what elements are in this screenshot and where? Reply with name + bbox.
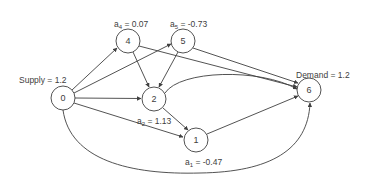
node-2-label: 2: [151, 94, 156, 104]
node-0: 0: [51, 86, 75, 110]
node-4: 4: [116, 29, 140, 53]
node-5-label: 5: [180, 36, 185, 46]
edge-0-2: [75, 98, 141, 99]
edge-1-6: [207, 96, 298, 134]
node-6: 6: [297, 78, 321, 102]
edge-2-6-curved: [165, 74, 297, 93]
node-5: 5: [171, 29, 195, 53]
a2-label: a2 = 1.13: [137, 116, 172, 127]
edges: [63, 44, 310, 173]
node-1: 1: [184, 128, 208, 152]
supply-label: Supply = 1.2: [19, 75, 67, 85]
edge-5-2: [159, 52, 178, 87]
flow-network-diagram: 0 1 2 4 5 6 Supply = 1.2 Demand = 1.2 a4…: [0, 0, 368, 182]
node-1-label: 1: [193, 135, 198, 145]
node-0-label: 0: [60, 93, 65, 103]
node-4-label: 4: [125, 36, 130, 46]
a5-label: a5 = -0.73: [170, 19, 207, 30]
a1-label: a1 = -0.47: [185, 157, 222, 168]
edge-4-2: [133, 52, 149, 87]
node-6-label: 6: [306, 85, 311, 95]
edge-0-4: [72, 48, 117, 90]
node-2: 2: [142, 87, 166, 111]
edge-5-6: [193, 48, 298, 83]
demand-label: Demand = 1.2: [296, 70, 350, 80]
a4-label: a4 = 0.07: [114, 19, 149, 30]
